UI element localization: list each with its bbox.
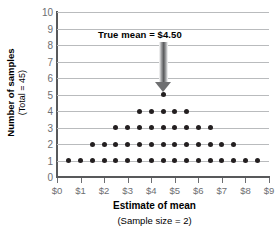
- y-axis-tick-label: 10: [32, 7, 53, 18]
- gridline: [57, 12, 269, 13]
- data-point: [113, 125, 118, 130]
- data-point: [78, 158, 83, 163]
- data-point: [243, 158, 248, 163]
- data-point: [219, 158, 224, 163]
- data-point: [113, 158, 118, 163]
- x-axis-tick-label: $5: [169, 185, 180, 196]
- data-point: [149, 125, 154, 130]
- y-axis-tick-label: 4: [32, 106, 53, 117]
- data-point: [161, 158, 166, 163]
- x-axis-tick-label: $6: [193, 185, 204, 196]
- data-point: [137, 142, 142, 147]
- true-mean-arrow-head: [155, 82, 171, 92]
- y-axis-tick-label: 9: [32, 23, 53, 34]
- data-point: [231, 142, 236, 147]
- x-axis-tick-mark: [175, 178, 176, 183]
- data-point: [161, 125, 166, 130]
- y-axis-tick-label: 8: [32, 40, 53, 51]
- y-axis-title-sub: (Total = 45): [17, 48, 27, 136]
- y-axis-tick-label: 1: [32, 155, 53, 166]
- x-axis-tick-mark: [269, 178, 270, 183]
- x-axis-tick-mark: [198, 178, 199, 183]
- y-axis-title: Number of samples (Total = 45): [0, 0, 34, 185]
- data-point: [172, 142, 177, 147]
- x-axis-tick-label: $8: [240, 185, 251, 196]
- data-point: [172, 125, 177, 130]
- data-point: [149, 142, 154, 147]
- y-axis-tick-label: 2: [32, 139, 53, 150]
- true-mean-arrow-shaft: [159, 42, 168, 84]
- x-axis-tick-mark: [57, 178, 58, 183]
- true-mean-annotation-label: True mean = $4.50: [98, 29, 182, 40]
- data-point: [137, 125, 142, 130]
- data-point: [255, 158, 260, 163]
- data-point: [184, 142, 189, 147]
- y-axis-tick-label: 3: [32, 122, 53, 133]
- data-point: [125, 125, 130, 130]
- data-point: [149, 109, 154, 114]
- data-point: [125, 142, 130, 147]
- y-axis-tick-label: 7: [32, 56, 53, 67]
- x-axis-subtitle: (Sample size = 2): [0, 215, 275, 226]
- data-point: [172, 109, 177, 114]
- data-point: [208, 125, 213, 130]
- x-axis-tick-mark: [128, 178, 129, 183]
- x-axis-tick-mark: [222, 178, 223, 183]
- x-axis-tick-mark: [104, 178, 105, 183]
- data-point: [208, 142, 213, 147]
- x-axis-tick-label: $2: [99, 185, 110, 196]
- data-point: [125, 158, 130, 163]
- data-point: [90, 158, 95, 163]
- x-axis-tick-label: $3: [122, 185, 133, 196]
- data-point: [196, 142, 201, 147]
- data-point: [90, 142, 95, 147]
- data-point: [113, 142, 118, 147]
- data-point: [196, 158, 201, 163]
- y-axis-tick-label: 0: [32, 172, 53, 183]
- data-point: [66, 158, 71, 163]
- data-point: [102, 142, 107, 147]
- data-point: [208, 158, 213, 163]
- data-point: [137, 109, 142, 114]
- x-axis-tick-label: $7: [217, 185, 228, 196]
- x-axis-tick-label: $0: [52, 185, 63, 196]
- data-point: [196, 125, 201, 130]
- data-point: [161, 92, 166, 97]
- data-point: [102, 158, 107, 163]
- x-axis-tick-label: $4: [146, 185, 157, 196]
- x-axis-title: Estimate of mean: [0, 200, 275, 211]
- data-point: [184, 125, 189, 130]
- dot-plot-chart: Number of samples (Total = 45) 012345678…: [0, 0, 275, 245]
- x-axis-tick-label: $1: [75, 185, 86, 196]
- y-axis-tick-label: 5: [32, 89, 53, 100]
- data-point: [161, 142, 166, 147]
- x-axis-tick-label: $9: [264, 185, 275, 196]
- y-axis-tick-label: 6: [32, 73, 53, 84]
- y-axis-title-main: Number of samples: [6, 48, 17, 136]
- data-point: [184, 109, 189, 114]
- x-axis-tick-mark: [81, 178, 82, 183]
- data-point: [161, 109, 166, 114]
- data-point: [219, 142, 224, 147]
- data-point: [137, 158, 142, 163]
- x-axis-tick-mark: [245, 178, 246, 183]
- data-point: [172, 158, 177, 163]
- data-point: [184, 158, 189, 163]
- x-axis-tick-mark: [151, 178, 152, 183]
- data-point: [149, 158, 154, 163]
- data-point: [231, 158, 236, 163]
